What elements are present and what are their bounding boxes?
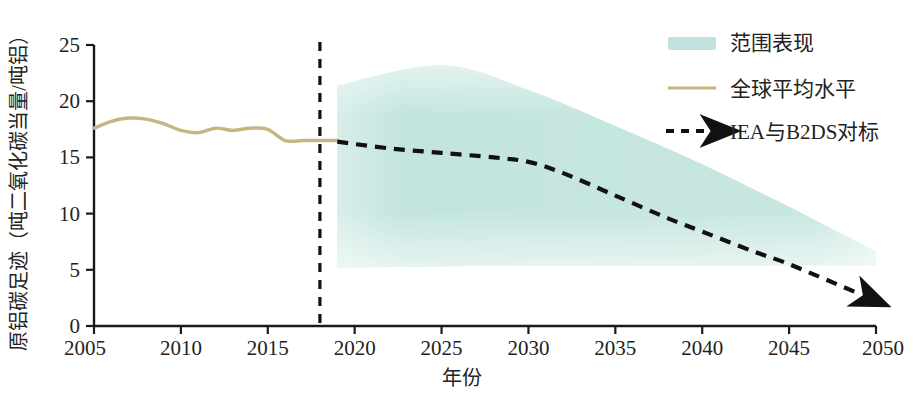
x-axis-tick-label: 2015 (247, 336, 289, 360)
x-axis-tick-label: 2005 (64, 336, 106, 360)
legend-swatch-range (668, 37, 716, 50)
y-axis-tick-label: 5 (70, 258, 81, 282)
legend-item-global-average[interactable]: 全球平均水平 (668, 77, 856, 101)
x-axis-tick-label: 2050 (862, 336, 904, 360)
legend: 范围表现 全球平均水平 IEA与B2DS对标 (666, 31, 879, 144)
legend-item-range[interactable]: 范围表现 (668, 31, 814, 55)
y-axis-tick-labels: 0510152025 (59, 33, 80, 338)
x-axis-tick-label: 2035 (594, 336, 636, 360)
legend-label-range: 范围表现 (730, 31, 814, 55)
y-axis-title: 原铝碳足迹（吨二氧化碳当量/吨铝） (8, 25, 30, 351)
y-axis-tick-label: 25 (59, 33, 80, 57)
x-axis-tick-label: 2020 (334, 336, 376, 360)
legend-label-iea-b2ds: IEA与B2DS对标 (730, 120, 879, 144)
y-axis-tick-label: 10 (59, 202, 80, 226)
x-axis-ticks (94, 326, 876, 334)
x-axis-tick-labels: 2005201020152020202520302035204020452050 (64, 336, 904, 360)
chart-container: 0510152025 20052010201520202025203020352… (0, 0, 913, 408)
x-axis-tick-label: 2025 (421, 336, 463, 360)
x-axis-tick-label: 2040 (681, 336, 723, 360)
y-axis-tick-label: 0 (70, 314, 81, 338)
legend-label-global-average: 全球平均水平 (730, 77, 856, 101)
y-axis-tick-label: 15 (59, 145, 80, 169)
x-axis-tick-label: 2010 (160, 336, 202, 360)
x-axis-title: 年份 (442, 367, 482, 389)
y-axis-tick-label: 20 (59, 89, 80, 113)
global-average-line (94, 118, 337, 141)
aluminium-carbon-footprint-chart: 0510152025 20052010201520202025203020352… (0, 0, 913, 408)
x-axis-tick-label: 2030 (507, 336, 549, 360)
legend-item-iea-b2ds[interactable]: IEA与B2DS对标 (666, 120, 879, 144)
x-axis-tick-label: 2045 (768, 336, 810, 360)
